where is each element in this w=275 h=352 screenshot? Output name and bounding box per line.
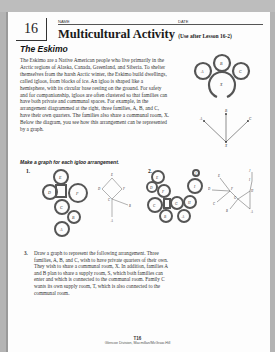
p1-room-f: F [75,191,79,196]
room-label-a: A [200,69,204,74]
edge-e-d [102,178,112,189]
graph-label-c: C [249,117,252,121]
room-label-x: X [219,82,223,87]
edge-c-f [217,191,230,202]
p2-graph-i: I [248,178,251,182]
edge-e-f [220,178,230,191]
p2-graph-b: B [226,209,228,213]
edge-g-h [238,191,250,199]
p2-graph-f: F [230,187,233,191]
p2-graph-g: G [234,196,237,200]
room-label-b: B [220,61,223,66]
graph-label-x: X [224,144,228,148]
p1-graph-d: D [97,187,101,191]
igloo-room-g-link [164,199,170,208]
p2-room-a: A [181,215,185,219]
problem-2-graph: E D F C G B A H I J [208,169,263,219]
problem-3-number: 3. [24,250,28,257]
p1-room-d: D [47,190,51,195]
problem-1-graph: E D F C B A [96,172,136,232]
instructions-prompt: Make a graph for each igloo arrangement. [20,159,119,165]
node-x [225,141,227,143]
edge-c-b [112,199,128,205]
title-text: Multicultural Activity [58,27,175,41]
p1-graph-e: E [110,173,113,177]
p2-room-b: B [164,215,167,219]
edge-e-f [112,178,122,189]
edge-d-f [212,190,230,191]
p2-room-d: D [149,186,153,190]
p2-room-h: H [187,201,191,205]
example-igloo-diagram: A B C X [190,50,260,100]
p1-graph-b: B [129,204,131,208]
room-label-c: C [239,69,242,74]
edge-c-x [226,121,248,142]
graph-label-a: A [199,117,203,121]
p2-graph-a: A [250,210,253,214]
p2-room-g: G [175,202,178,206]
section-title: The Eskimo [20,44,68,54]
p2-graph-e: E [217,174,220,178]
page-title: Multicultural Activity (Use after Lesson… [58,27,232,42]
name-label: NAME [58,19,70,24]
intro-paragraph: The Eskimo are a Native American people … [20,57,170,133]
p2-room-f: F [161,190,165,194]
p1-room-a: A [59,227,63,232]
date-label: DATE [178,19,188,24]
example-graph: A B C X [196,109,256,149]
p2-graph-j: J [249,169,251,173]
p1-room-c: C [60,205,63,210]
p1-graph-f: F [122,187,125,191]
worksheet-page: 16 NAME DATE Multicultural Activity (Use… [8,12,270,352]
graph-label-b: B [225,109,228,113]
p1-room-b: B [72,215,75,220]
title-subtitle: (Use after Lesson 16-2) [178,33,232,39]
p2-room-e: E [155,176,159,180]
scan-top-edge [0,0,275,12]
edge-f-c [112,189,122,199]
p2-graph-h: H [250,189,254,193]
problem-1-igloo-diagram: E D F C B A [42,169,92,241]
node-a [203,120,205,122]
edge-g-a [238,199,250,209]
p1-graph-a: A [110,219,113,223]
node-b [225,113,227,115]
p2-room-i: I [193,185,196,189]
edge-g-b [230,199,238,209]
name-date-line: NAME DATE [58,19,263,25]
problem-3-text: Draw a graph to represent the following … [24,250,174,296]
p2-room-c: C [153,204,156,208]
p1-graph-c: C [108,198,111,202]
lesson-number: 16 [16,18,47,41]
problem-2-igloo-diagram: E D F C G B A H I J [146,169,208,227]
p2-graph-d: D [208,187,211,191]
edge-d-c [102,189,112,199]
page-footer: T16 Glencoe Division, Macmillan/McGraw-H… [0,336,275,345]
p1-room-e: E [58,175,62,180]
publisher-credit: Glencoe Division, Macmillan/McGraw-Hill [0,341,275,345]
problem-1-number: 1. [26,168,30,174]
edge-a-x [204,121,226,142]
problem-3: 3. Draw a graph to represent the followi… [24,250,174,296]
p2-graph-c: C [213,202,216,206]
